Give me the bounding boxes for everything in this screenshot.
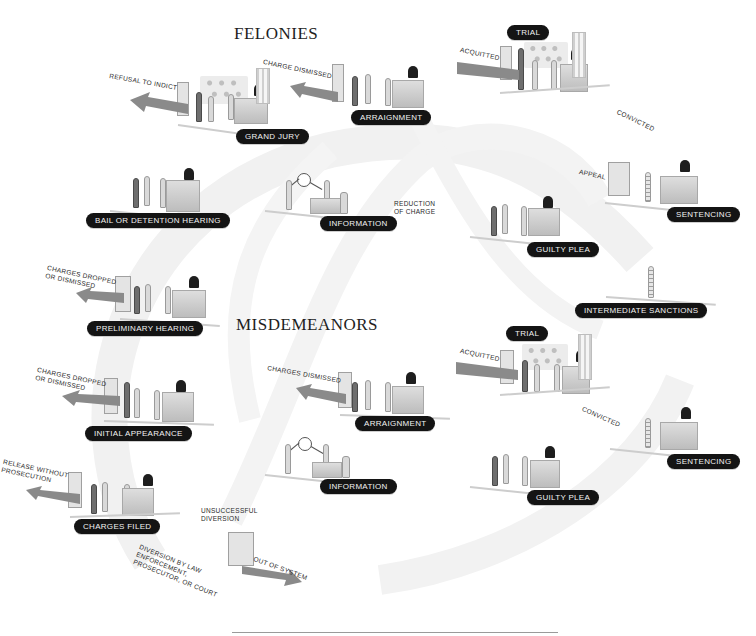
courtroom-screen	[578, 334, 592, 380]
defendant-figure	[554, 364, 560, 392]
guilty-plea-felony-label: GUILTY PLEA	[527, 242, 599, 257]
judge-figure	[681, 407, 691, 419]
judge-figure	[176, 380, 186, 392]
judge-bench	[660, 422, 698, 450]
acquitted-arrow	[456, 360, 520, 382]
judge-figure	[680, 160, 690, 172]
defendant-figure	[534, 364, 540, 392]
clerk-figure	[342, 456, 350, 478]
officer-figure	[134, 286, 140, 314]
judge-bench	[166, 180, 200, 212]
defendant-figure	[365, 74, 371, 104]
defendant-figure	[365, 380, 371, 410]
footer-rule	[232, 632, 558, 633]
appeal-door	[608, 162, 630, 196]
bail-hearing-label: BAIL OR DETENTION HEARING	[86, 213, 230, 228]
judge-bench	[392, 386, 424, 414]
judge-bench	[172, 290, 206, 318]
judge-bench	[528, 208, 560, 236]
judge-figure	[184, 168, 194, 180]
arraignment-felony-label: ARRAIGNMENT	[351, 110, 431, 125]
judge-figure	[543, 196, 553, 208]
sentencing-misd-label: SENTENCING	[667, 454, 740, 469]
intermediate-sanctions-label: INTERMEDIATE SANCTIONS	[575, 303, 707, 318]
charges-dismissed-arrow	[296, 384, 348, 406]
charges-filed-label: CHARGES FILED	[74, 519, 160, 534]
unsuccessful-diversion-label: UNSUCCESSFUL DIVERSION	[201, 507, 258, 523]
officer-figure	[352, 382, 358, 412]
sanctioned-figure	[648, 266, 654, 298]
courtroom-screen	[572, 32, 586, 78]
arraignment-misd-label: ARRAIGNMENT	[355, 416, 435, 431]
defendant-figure	[532, 60, 538, 90]
courtroom-screen	[256, 68, 270, 104]
defendant-figure	[522, 456, 528, 486]
officer-figure	[491, 206, 497, 236]
judge-figure	[406, 372, 416, 384]
defendant-figure	[385, 382, 391, 412]
defendant-figure	[551, 60, 557, 90]
information-document-icon	[297, 173, 311, 187]
information-felony-label: INFORMATION	[320, 216, 397, 231]
defendant-figure	[165, 286, 171, 314]
information-document-icon	[298, 437, 312, 451]
prosecutor-figure	[286, 180, 292, 210]
defendant-figure	[208, 96, 214, 122]
defendant-figure	[385, 78, 391, 106]
release-arrow	[26, 484, 82, 506]
judge-figure	[143, 474, 153, 486]
officer-figure	[492, 456, 498, 486]
trial-felony-label: TRIAL	[507, 25, 549, 40]
officer-figure	[133, 178, 139, 208]
judge-figure	[189, 276, 199, 288]
clerk-figure	[340, 192, 348, 214]
defendant-figure	[102, 482, 108, 512]
officer-figure	[522, 360, 528, 392]
judge-bench	[392, 80, 424, 108]
judge-figure	[408, 66, 418, 78]
judge-bench	[660, 176, 698, 204]
officer-figure	[352, 76, 358, 106]
defendant-figure	[134, 388, 140, 418]
reduction-of-charge-label: REDUCTION OF CHARGE	[394, 200, 435, 216]
felonies-title: FELONIES	[234, 24, 318, 44]
grand-jury-label: GRAND JURY	[236, 129, 309, 144]
out-of-system-door	[228, 532, 254, 566]
acquitted-arrow	[457, 60, 521, 82]
officer-figure	[91, 484, 97, 514]
information-misd-label: INFORMATION	[320, 479, 397, 494]
initial-appearance-label: INITIAL APPEARANCE	[85, 426, 192, 441]
convicted-figure	[645, 172, 651, 202]
defendant-figure	[503, 454, 509, 484]
clerk-desk	[310, 198, 342, 214]
judge-figure	[545, 446, 555, 458]
convicted-figure	[645, 418, 651, 448]
judge-bench	[162, 392, 194, 422]
defendant-figure	[144, 176, 150, 206]
sentencing-felony-label: SENTENCING	[667, 207, 740, 222]
guilty-plea-misd-label: GUILTY PLEA	[527, 490, 599, 505]
officer-figure	[196, 92, 202, 122]
defendant-figure	[145, 284, 151, 312]
prosecutor-figure	[285, 444, 291, 474]
defendant-figure	[502, 204, 508, 234]
charge-dismissed-arrow	[290, 82, 340, 104]
trial-misd-label: TRIAL	[506, 326, 548, 341]
officer-figure	[124, 382, 130, 418]
justice-process-diagram: FELONIES MISDEMEANORS REFUSAL TO INDICT …	[0, 0, 756, 636]
defendant-figure	[154, 390, 160, 420]
preliminary-hearing-label: PRELIMINARY HEARING	[87, 321, 203, 336]
misdemeanors-title: MISDEMEANORS	[236, 315, 378, 335]
judge-bench	[122, 488, 154, 516]
refusal-to-indict-arrow	[130, 92, 190, 118]
clerk-desk	[312, 462, 342, 478]
judge-bench	[530, 460, 560, 488]
defendant-figure	[521, 206, 527, 236]
